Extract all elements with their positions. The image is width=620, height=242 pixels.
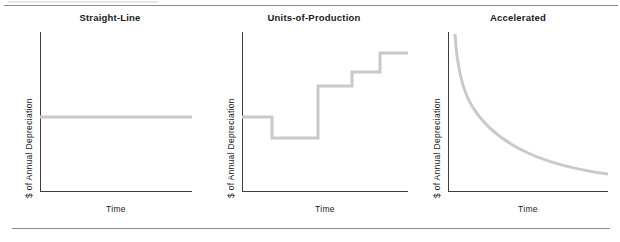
chart-panel-straight-line: Straight-Line $ of Annual Depreciation T… bbox=[12, 12, 208, 224]
top-divider-rule bbox=[4, 5, 618, 6]
chart-title-units-of-production: Units-of-Production bbox=[208, 12, 420, 23]
y-axis-label-units-of-production: $ of Annual Depreciation bbox=[226, 98, 236, 198]
chart-panel-units-of-production: Units-of-Production $ of Annual Deprecia… bbox=[208, 12, 420, 224]
series-straight-line bbox=[40, 32, 192, 192]
series-path-units-of-production bbox=[242, 53, 408, 138]
plot-area-accelerated bbox=[448, 32, 608, 192]
series-path-accelerated bbox=[455, 34, 608, 174]
y-axis-label-straight-line: $ of Annual Depreciation bbox=[24, 98, 34, 198]
bottom-divider-rule bbox=[12, 228, 610, 229]
y-axis-label-accelerated: $ of Annual Depreciation bbox=[432, 98, 442, 198]
plot-area-units-of-production bbox=[242, 32, 408, 192]
depreciation-methods-figure: Straight-Line $ of Annual Depreciation T… bbox=[0, 0, 620, 242]
x-axis-label-straight-line: Time bbox=[40, 204, 192, 214]
x-axis-label-units-of-production: Time bbox=[242, 204, 408, 214]
page-bleed-artifact bbox=[8, 1, 158, 3]
series-units-of-production bbox=[242, 32, 408, 192]
chart-title-straight-line: Straight-Line bbox=[12, 12, 208, 23]
plot-area-straight-line bbox=[40, 32, 192, 192]
series-accelerated bbox=[448, 32, 608, 192]
chart-title-accelerated: Accelerated bbox=[420, 12, 616, 23]
chart-panel-accelerated: Accelerated $ of Annual Depreciation Tim… bbox=[420, 12, 616, 224]
x-axis-label-accelerated: Time bbox=[448, 204, 608, 214]
